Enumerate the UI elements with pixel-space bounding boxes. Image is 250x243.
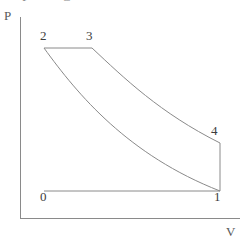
y-axis-label: P xyxy=(4,9,11,22)
state-label-0: 0 xyxy=(40,190,47,203)
pv-diagram-figure: P C P V 0 1 2 3 4 xyxy=(0,0,250,243)
process-3-4-curve xyxy=(92,48,220,143)
state-label-4: 4 xyxy=(211,124,218,137)
pv-diagram-plot xyxy=(0,0,250,243)
state-label-3: 3 xyxy=(86,29,93,42)
process-2-1-curve xyxy=(44,48,220,191)
state-label-1: 1 xyxy=(214,190,221,203)
x-axis-label: V xyxy=(226,225,235,238)
state-label-2: 2 xyxy=(40,29,47,42)
